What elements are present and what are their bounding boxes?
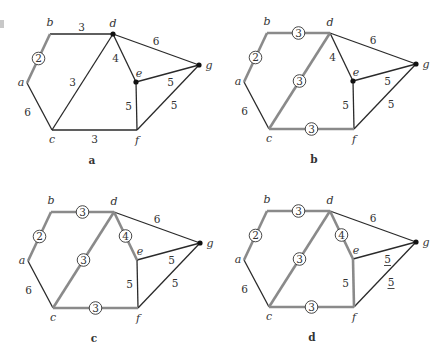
vertex-label-e: e [137, 245, 144, 258]
weight-label-cd: 3 [296, 75, 303, 87]
weight-label-de: 4 [329, 51, 336, 63]
edge-ef [136, 82, 137, 130]
panel-caption: d [308, 331, 316, 343]
edge-cd [52, 34, 113, 130]
vertex-label-g: g [205, 59, 212, 72]
panel-a: 2363465553abcdefga [18, 16, 213, 166]
vertex-label-a: a [235, 75, 242, 88]
panel-caption: c [91, 332, 97, 344]
panel-caption: a [89, 154, 96, 166]
vertex-label-c: c [50, 311, 56, 324]
weight-label-de: 4 [338, 229, 345, 241]
weight-label-bd: 3 [79, 206, 86, 218]
vertex-label-f: f [134, 134, 141, 147]
edge-ef [353, 81, 354, 129]
vertex-label-g: g [206, 237, 213, 250]
vertex-label-e: e [136, 67, 143, 80]
weight-label-ef: 5 [126, 278, 133, 290]
weight-label-eg: 5 [384, 75, 391, 87]
vertex-label-e: e [353, 66, 360, 79]
vertex-label-g: g [422, 236, 429, 249]
vertex-label-a: a [18, 76, 25, 89]
weight-label-de: 4 [122, 230, 129, 242]
weight-label-eg: 5 [168, 254, 175, 266]
weight-label-ac: 6 [25, 284, 32, 296]
weight-label-ac: 6 [24, 106, 31, 118]
weight-label-ab: 2 [252, 51, 259, 63]
vertex-dot-g [413, 239, 418, 244]
weight-label-dg: 6 [153, 35, 160, 47]
weight-label-cd: 3 [69, 76, 76, 88]
vertex-dot-d [110, 31, 115, 36]
vertex-dot-e [350, 78, 355, 83]
weight-label-eg: 5 [384, 253, 391, 265]
vertex-label-d: d [326, 194, 333, 207]
vertex-label-a: a [235, 253, 242, 266]
weight-label-cd: 3 [80, 254, 87, 266]
weight-label-cd: 3 [296, 253, 303, 265]
weight-label-ab: 2 [35, 52, 42, 64]
edge-fg [354, 242, 416, 307]
vertex-label-d: d [326, 16, 333, 29]
panel-b: 2363465553abcdefgb [235, 15, 430, 165]
weight-label-dg: 6 [370, 212, 377, 224]
vertex-label-c: c [49, 133, 55, 146]
vertex-label-a: a [19, 254, 26, 267]
weight-label-fg: 5 [172, 277, 179, 289]
weight-label-ef: 5 [342, 277, 349, 289]
vertex-dot-g [413, 61, 418, 66]
scan-artifact [0, 20, 4, 28]
weight-label-cf: 3 [308, 301, 315, 313]
weight-label-fg: 5 [388, 98, 395, 110]
vertex-label-c: c [266, 310, 272, 323]
weight-label-dg: 6 [370, 34, 377, 46]
weight-label-de: 4 [112, 52, 119, 64]
panel-c: 2363465553abcdefgc [19, 194, 214, 344]
vertex-label-f: f [351, 311, 358, 324]
weight-label-ac: 6 [241, 283, 248, 295]
vertex-dot-e [133, 79, 138, 84]
edge-ef [353, 259, 354, 307]
vertex-label-e: e [353, 244, 360, 257]
weight-label-cf: 3 [91, 133, 98, 145]
weight-label-ac: 6 [241, 105, 248, 117]
vertex-label-b: b [263, 15, 270, 28]
vertex-label-d: d [109, 17, 116, 30]
weight-label-ab: 2 [36, 230, 43, 242]
vertex-dot-g [196, 62, 201, 67]
edge-fg [137, 65, 199, 130]
weight-label-bd: 3 [295, 27, 302, 39]
weight-label-cf: 3 [92, 302, 99, 314]
weight-label-fg: 5 [388, 276, 395, 288]
vertex-label-f: f [351, 133, 358, 146]
vertex-label-b: b [47, 194, 54, 207]
vertex-label-c: c [266, 132, 272, 145]
panel-d: 2363465553abcdefgd [235, 193, 430, 343]
weight-label-bd: 3 [295, 205, 302, 217]
weight-label-ef: 5 [125, 100, 132, 112]
weight-label-eg: 5 [167, 76, 174, 88]
vertex-label-b: b [263, 193, 270, 206]
edge-ef [137, 260, 138, 308]
vertex-label-b: b [46, 16, 53, 29]
weight-label-dg: 6 [154, 213, 161, 225]
vertex-dot-g [197, 240, 202, 245]
panel-caption: b [310, 153, 317, 165]
weight-label-ef: 5 [342, 99, 349, 111]
weight-label-bd: 3 [78, 21, 85, 33]
edge-fg [138, 243, 200, 308]
weight-label-cf: 3 [308, 123, 315, 135]
weight-label-ab: 2 [252, 229, 259, 241]
edge-fg [354, 64, 416, 129]
weight-label-fg: 5 [171, 99, 178, 111]
vertex-label-d: d [110, 195, 117, 208]
graph-figure: 2363465553abcdefga2363465553abcdefgb2363… [0, 0, 439, 357]
vertex-label-g: g [422, 58, 429, 71]
vertex-label-f: f [135, 312, 142, 325]
